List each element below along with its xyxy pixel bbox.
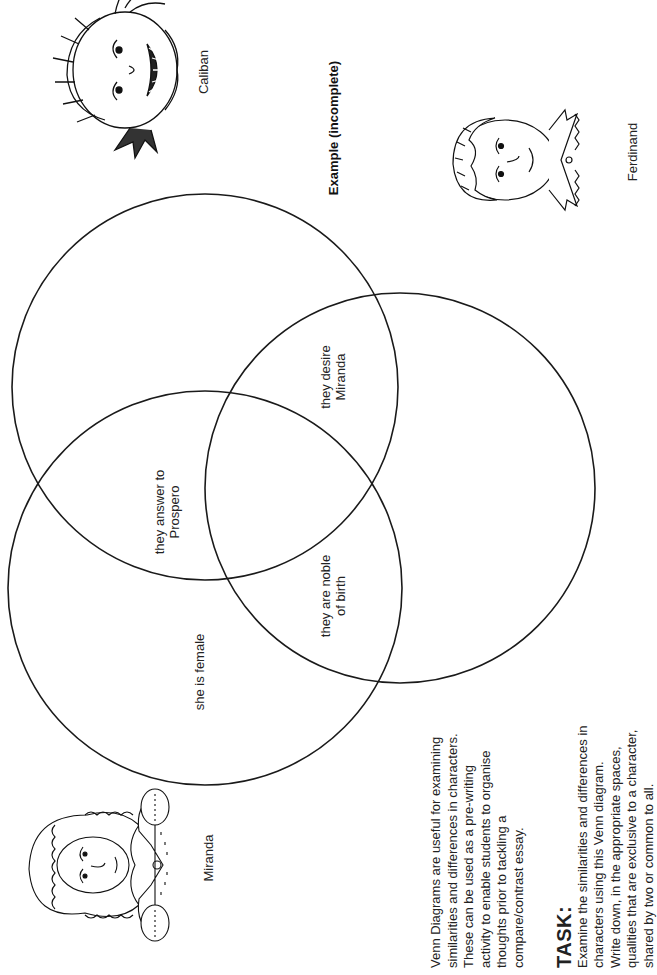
region-miranda-ferdinand: they are noble of birth [318,555,348,637]
intro-line: These can be used as a pre-writing [461,733,478,968]
intro-line: Venn Diagrams are useful for examining [428,733,445,968]
example-title: Example (incomplete) [326,61,341,195]
task-line: characters using this Venn diagram. [591,725,608,968]
miranda-label: Miranda [201,835,216,882]
task-heading: TASK: [556,725,573,968]
caliban-label: Caliban [196,50,211,94]
ferdinand-portrait [453,110,579,210]
region-line-2: of birth [333,555,348,637]
region-caliban-miranda: they answer to Prospero [152,470,182,555]
region-line-2: Prospero [167,470,182,555]
intro-line: similarities and differences in characte… [445,733,462,968]
intro-line: compare/contrast essay. [511,733,528,968]
task-line: qualities that are exclusive to a charac… [624,725,641,968]
region-line-1: they desire [318,345,333,409]
intro-text: Venn Diagrams are useful for examining s… [428,733,527,968]
task-block: TASK: Examine the similarities and diffe… [556,725,657,968]
region-line-1: they answer to [152,470,167,555]
region-line-2: Miranda [333,345,348,409]
region-caliban-ferdinand: they desire Miranda [318,345,348,409]
task-line: shared by two or common to all. [641,725,657,968]
region-miranda-only: she is female [192,634,207,711]
intro-line: activity to enable students to organise [478,733,495,968]
region-line-1: they are noble [318,555,333,637]
task-line: Write down, in the appropriate spaces, [608,725,625,968]
caliban-portrait [53,0,178,158]
ferdinand-label: Ferdinand [625,123,640,182]
task-line: Examine the similarities and differences… [575,725,592,968]
region-line-1: she is female [192,634,207,711]
circle-ferdinand [205,293,595,683]
miranda-portrait [29,789,169,941]
intro-line: thoughts prior to tackling a [494,733,511,968]
